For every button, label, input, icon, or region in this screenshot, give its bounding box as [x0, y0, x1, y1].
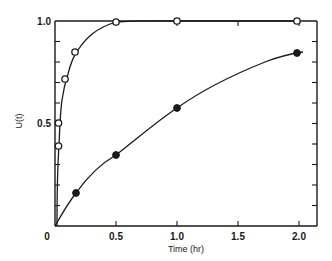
filled-series-markers	[73, 50, 301, 197]
x-tick-1.5: 1.5	[231, 231, 245, 242]
x-tick-0: 0	[44, 231, 50, 242]
y-axis-label: U(t)	[14, 114, 24, 129]
filled-point	[174, 105, 181, 112]
open-series-markers	[55, 18, 300, 149]
open-point	[55, 120, 61, 126]
open-point	[62, 76, 68, 82]
y-tick-1.0: 1.0	[37, 16, 51, 27]
filled-series-curve	[55, 52, 303, 226]
open-series-curve	[57, 21, 299, 226]
x-axis-label: Time (hr)	[168, 244, 204, 254]
chart: 1.0 0.5 0 0.5 1.0 1.5 2.0 Time (hr) U(t)	[0, 0, 332, 261]
x-tick-2.0: 2.0	[292, 231, 306, 242]
open-point	[174, 18, 180, 24]
y-tick-0.5: 0.5	[37, 118, 51, 129]
open-point	[113, 19, 119, 25]
x-tick-1.0: 1.0	[170, 231, 184, 242]
plot-frame	[55, 21, 317, 226]
filled-point	[113, 152, 120, 159]
x-axis-ticks	[116, 21, 299, 226]
y-axis-ticks-right	[312, 42, 317, 206]
open-point	[55, 143, 61, 149]
filled-point	[73, 190, 80, 197]
x-tick-0.5: 0.5	[109, 231, 123, 242]
open-point	[72, 49, 78, 55]
open-point	[294, 18, 300, 24]
filled-point	[294, 50, 301, 57]
